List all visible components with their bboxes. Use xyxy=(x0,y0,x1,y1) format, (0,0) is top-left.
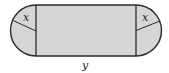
left-radius-label: x xyxy=(23,11,30,24)
stadium-diagram: x x y xyxy=(0,0,169,73)
stadium-shape xyxy=(11,5,162,56)
rect-length-label: y xyxy=(81,59,89,72)
right-radius-label: x xyxy=(142,11,149,24)
